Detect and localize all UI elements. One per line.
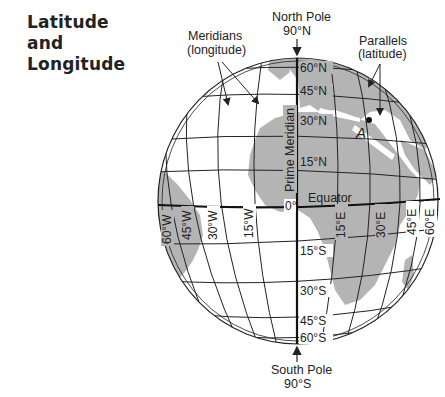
label-60s: 60°S	[300, 331, 326, 345]
label-15e: 15°E	[334, 212, 348, 238]
label-30e: 30°E	[374, 212, 388, 238]
south-pole-label: South Pole	[271, 363, 332, 377]
label-45w: 45°W	[180, 210, 194, 240]
point-a-marker	[366, 117, 372, 123]
label-15s: 15°S	[300, 244, 326, 258]
label-15w: 15°W	[242, 208, 256, 238]
meridians-sublabel: (longitude)	[187, 43, 246, 57]
label-30n: 30°N	[300, 114, 327, 128]
label-30s: 30°S	[300, 284, 326, 298]
label-45e: 45°E	[405, 209, 419, 235]
parallels-label: Parallels	[359, 34, 407, 48]
label-60e: 60°E	[423, 209, 437, 235]
label-60n: 60°N	[300, 61, 327, 75]
meridians-label: Meridians	[188, 29, 242, 43]
parallels-sublabel: (latitude)	[358, 47, 407, 61]
label-30w: 30°W	[206, 210, 220, 240]
south-pole-degrees: 90°S	[284, 377, 311, 391]
label-15n: 15°N	[300, 155, 327, 169]
prime-meridian-label-group: Prime Meridian	[283, 105, 297, 193]
north-pole-degrees: 90°N	[283, 24, 311, 38]
label-60w: 60°W	[160, 214, 174, 244]
label-0: 0°	[285, 199, 297, 213]
prime-meridian-label: Prime Meridian	[283, 108, 297, 192]
north-pole-label: North Pole	[272, 10, 331, 24]
equator-label: Equator	[308, 191, 352, 205]
point-a-label: A	[355, 124, 366, 141]
globe-diagram: A 60°N 45°N 30°N 15°N 0° 15°S 30°S 45°S …	[0, 0, 445, 397]
label-45s: 45°S	[300, 314, 326, 328]
label-45n: 45°N	[300, 84, 327, 98]
